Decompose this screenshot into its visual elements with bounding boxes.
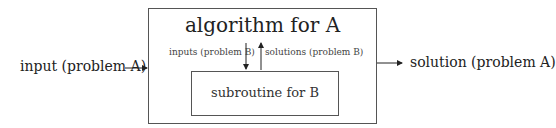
outer-box-algorithm: algorithm for A inputs (problem B) solut… xyxy=(148,8,377,124)
output-label: solution (problem A) xyxy=(410,54,556,70)
up-arrow-label: solutions (problem B) xyxy=(265,47,363,57)
down-arrow-label: inputs (problem B) xyxy=(169,47,255,57)
input-label: input (problem A) xyxy=(20,58,146,74)
inner-box-subroutine: subroutine for B xyxy=(191,71,339,116)
outer-box-title: algorithm for A xyxy=(149,13,376,37)
inner-box-label: subroutine for B xyxy=(192,85,338,100)
